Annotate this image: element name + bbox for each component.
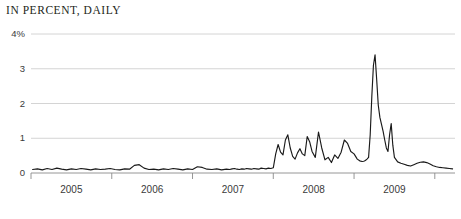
x-tick-label: 2005 (41, 184, 101, 195)
y-tick-label: 3 (0, 64, 25, 74)
y-tick-label: 0 (0, 168, 25, 178)
y-tick-label: 2 (0, 99, 25, 109)
x-tick-marks-group (31, 173, 435, 179)
chart-figure: IN PERCENT, DAILY 4%3210 200520062007200… (0, 0, 461, 219)
x-tick-label: 2008 (284, 184, 344, 195)
x-tick-label: 2006 (122, 184, 182, 195)
data-series-line (33, 55, 453, 170)
plot-area: 4%3210 20052006200720082009 (0, 0, 461, 219)
y-tick-label: 4% (0, 29, 25, 39)
gridlines-group (31, 34, 455, 173)
y-tick-label: 1 (0, 133, 25, 143)
x-tick-label: 2007 (203, 184, 263, 195)
x-tick-label: 2009 (364, 184, 424, 195)
